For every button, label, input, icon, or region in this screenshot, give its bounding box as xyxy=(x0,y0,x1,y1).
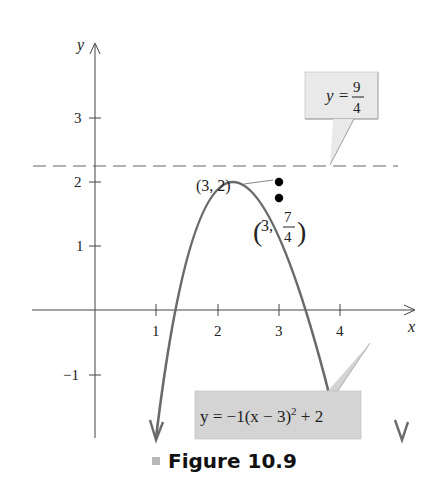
y-tick-label-neg1: −1 xyxy=(63,367,79,383)
focus-point xyxy=(275,194,283,202)
directrix-num: 9 xyxy=(353,79,361,95)
directrix-callout: y = 9 4 xyxy=(305,72,378,165)
vertex-leader-line xyxy=(244,180,273,184)
x-tick-label-2: 2 xyxy=(214,323,222,339)
caption-bullet-icon xyxy=(152,457,160,465)
directrix-label-lhs: y = xyxy=(324,86,349,105)
x-tick-label-4: 4 xyxy=(336,323,344,339)
focus-den: 4 xyxy=(284,229,292,245)
directrix-den: 4 xyxy=(353,100,361,116)
caption-text: Figure 10.9 xyxy=(168,449,297,473)
svg-text:y = −1(x − 3)2 + 2: y = −1(x − 3)2 + 2 xyxy=(200,405,323,426)
y-tick-label-1: 1 xyxy=(76,238,84,254)
figure-caption: Figure 10.9 xyxy=(152,449,297,473)
focus-label-prefix: 3, xyxy=(261,217,273,234)
equation-label: y = −1(x − 3) xyxy=(200,407,291,426)
y-tick-label-3: 3 xyxy=(74,110,82,126)
parabola-chart: 1 2 3 4 3 2 1 −1 y x (3, 2) ( 3, 7 4 ) y… xyxy=(0,0,443,485)
y-tick-label-2: 2 xyxy=(74,174,82,190)
x-axis-label: x xyxy=(407,318,415,335)
equation-tail: + 2 xyxy=(297,407,324,426)
y-axis-label: y xyxy=(75,36,85,54)
svg-text:): ) xyxy=(297,216,306,247)
focus-num: 7 xyxy=(284,209,292,225)
x-tick-label-3: 3 xyxy=(275,323,283,339)
vertex-label: (3, 2) xyxy=(196,177,231,195)
vertex-point xyxy=(275,178,283,186)
curve-arrow-right-icon xyxy=(395,420,408,440)
x-tick-label-1: 1 xyxy=(152,323,160,339)
equation-callout: y = −1(x − 3)2 + 2 xyxy=(195,343,370,439)
